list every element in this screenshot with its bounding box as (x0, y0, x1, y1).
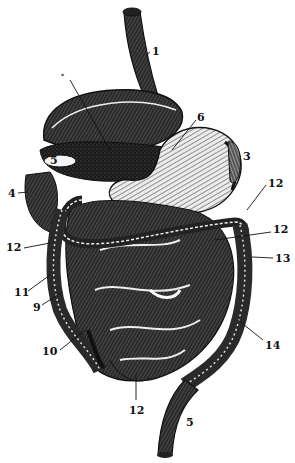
label-5-rectum: 5 (186, 417, 194, 428)
gallbladder (44, 155, 76, 167)
label-13-descending-colon: 13 (275, 253, 290, 264)
label-12-top-right: 12 (268, 178, 283, 189)
label-5-gallbladder: 5 (50, 155, 58, 166)
label-4: 4 (8, 188, 16, 199)
label-14: 14 (265, 340, 280, 351)
label-10-appendix: 10 (42, 346, 57, 357)
label-1-esophagus: 1 (152, 46, 160, 57)
label-3-spleen: 3 (243, 151, 251, 162)
label-9: 9 (33, 302, 41, 313)
spleen (228, 142, 240, 183)
label-11: 11 (14, 287, 29, 298)
label-12-bottom: 12 (129, 405, 144, 416)
label-asterisk: * (61, 73, 64, 79)
digestive-tract-illustration (0, 0, 295, 463)
label-12-mid-right: 12 (273, 224, 288, 235)
label-12-left: 12 (6, 242, 21, 253)
label-6: 6 (197, 112, 205, 123)
